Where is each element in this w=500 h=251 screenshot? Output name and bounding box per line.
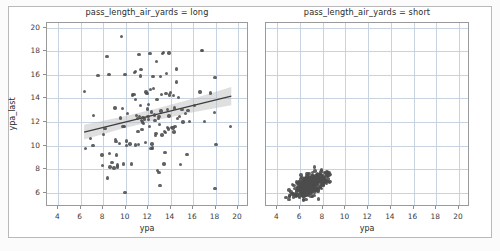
plot-area-short[interactable]	[265, 22, 469, 206]
scatter-point	[130, 162, 133, 165]
scatter-point	[324, 171, 327, 174]
x-tick-mark	[413, 206, 414, 209]
gridline-vertical	[345, 23, 346, 205]
scatter-point	[180, 108, 183, 111]
gridline-horizontal	[266, 146, 468, 147]
y-axis-label: ypa_last	[8, 97, 17, 130]
y-tick-label: 12	[31, 117, 40, 126]
x-tick-mark	[390, 206, 391, 209]
scatter-point	[123, 125, 126, 128]
scatter-point	[162, 162, 165, 165]
x-tick-label: 16	[187, 212, 196, 221]
scatter-point	[326, 180, 329, 183]
scatter-point	[289, 190, 292, 193]
gridline-horizontal	[266, 98, 468, 99]
x-tick-mark	[322, 206, 323, 209]
scatter-point	[312, 177, 315, 180]
x-tick-mark	[125, 206, 126, 209]
facet-panel-short: pass_length_air_yards = short ypa 468101…	[265, 22, 469, 206]
scatter-point	[292, 195, 295, 198]
y-tick-mark	[43, 97, 46, 98]
scatter-point	[134, 70, 137, 73]
gridline-horizontal	[266, 51, 468, 52]
scatter-point	[139, 74, 142, 77]
x-tick-mark	[215, 206, 216, 209]
scatter-point	[148, 52, 151, 55]
scatter-point	[172, 130, 175, 133]
scatter-point	[107, 73, 110, 76]
x-tick-label: 8	[319, 212, 324, 221]
x-tick-mark	[344, 206, 345, 209]
scatter-point	[300, 192, 303, 195]
scatter-point	[198, 90, 201, 93]
y-tick-label: 18	[31, 46, 40, 55]
scatter-point	[100, 153, 103, 156]
x-tick-label: 8	[100, 212, 105, 221]
scatter-point	[159, 109, 162, 112]
scatter-point	[113, 106, 116, 109]
x-axis-label-short: ypa	[265, 224, 469, 233]
gridline-vertical	[391, 23, 392, 205]
gridline-horizontal	[266, 169, 468, 170]
x-tick-mark	[57, 206, 58, 209]
y-tick-mark	[43, 192, 46, 193]
gridline-vertical	[277, 23, 278, 205]
x-tick-label: 14	[165, 212, 174, 221]
scatter-point	[123, 73, 126, 76]
gridline-horizontal	[266, 75, 468, 76]
facet-title-short: pass_length_air_yards = short	[265, 7, 469, 17]
y-tick-label: 8	[35, 164, 40, 173]
scatter-point	[126, 112, 129, 115]
y-tick-label: 6	[35, 187, 40, 196]
x-tick-label: 16	[408, 212, 417, 221]
y-tick-label: 16	[31, 69, 40, 78]
gridline-horizontal	[266, 122, 468, 123]
scatter-point	[175, 67, 178, 70]
x-tick-mark	[435, 206, 436, 209]
y-tick-mark	[43, 145, 46, 146]
scatter-point	[184, 112, 187, 115]
scatter-point	[137, 53, 140, 56]
gridline-vertical	[368, 23, 369, 205]
x-tick-label: 6	[297, 212, 302, 221]
scatter-point	[122, 162, 125, 165]
scatter-point	[185, 153, 188, 156]
x-tick-label: 4	[274, 212, 279, 221]
x-tick-label: 14	[385, 212, 394, 221]
y-tick-mark	[43, 168, 46, 169]
x-tick-mark	[299, 206, 300, 209]
scatter-point	[103, 127, 106, 130]
scatter-point	[108, 152, 111, 155]
scatter-point	[167, 114, 170, 117]
gridline-horizontal	[266, 28, 468, 29]
scatter-point	[153, 119, 156, 122]
x-tick-mark	[170, 206, 171, 209]
scatter-point	[181, 120, 184, 123]
x-tick-mark	[237, 206, 238, 209]
x-tick-label: 10	[340, 212, 349, 221]
scatter-point	[136, 130, 139, 133]
y-tick-label: 10	[31, 140, 40, 149]
scatter-point	[146, 107, 149, 110]
x-tick-label: 18	[431, 212, 440, 221]
scatter-point	[167, 51, 170, 54]
scatter-point	[209, 91, 212, 94]
regression-overlay	[47, 23, 247, 205]
plot-area-long[interactable]	[46, 22, 248, 206]
scatter-point	[160, 133, 163, 136]
scatter-point	[284, 196, 287, 199]
x-tick-label: 6	[77, 212, 82, 221]
scatter-point	[313, 165, 316, 168]
x-tick-mark	[102, 206, 103, 209]
scatter-point	[150, 142, 153, 145]
x-tick-label: 18	[210, 212, 219, 221]
gridline-vertical	[436, 23, 437, 205]
x-tick-mark	[367, 206, 368, 209]
x-tick-label: 4	[55, 212, 60, 221]
scatter-point	[119, 116, 122, 119]
scatter-point	[173, 106, 176, 109]
scatter-point	[213, 76, 216, 79]
scatter-point	[108, 165, 111, 168]
scatter-point	[214, 143, 217, 146]
scatter-point	[287, 198, 290, 201]
